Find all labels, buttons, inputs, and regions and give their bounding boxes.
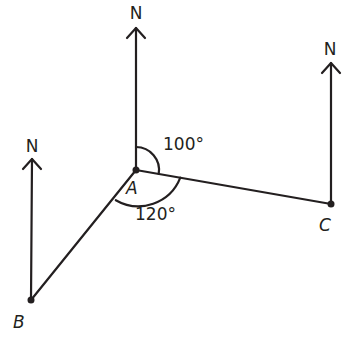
segment-ab [31, 170, 136, 300]
north-line-b [31, 159, 32, 300]
north-label-c: N [324, 39, 337, 59]
angle-label-100: 100° [163, 134, 204, 154]
north-label-b: N [26, 136, 39, 156]
point-c [328, 201, 335, 208]
point-label-b: B [13, 312, 25, 332]
point-label-a: A [125, 178, 138, 198]
north-label-a: N [130, 3, 143, 23]
point-a [133, 167, 140, 174]
diagram-svg: N N N 100° 120° A B C [0, 0, 345, 337]
point-label-c: C [319, 215, 331, 235]
angle-label-120: 120° [135, 204, 176, 224]
bearing-diagram: N N N 100° 120° A B C [0, 0, 345, 337]
point-b [28, 297, 35, 304]
